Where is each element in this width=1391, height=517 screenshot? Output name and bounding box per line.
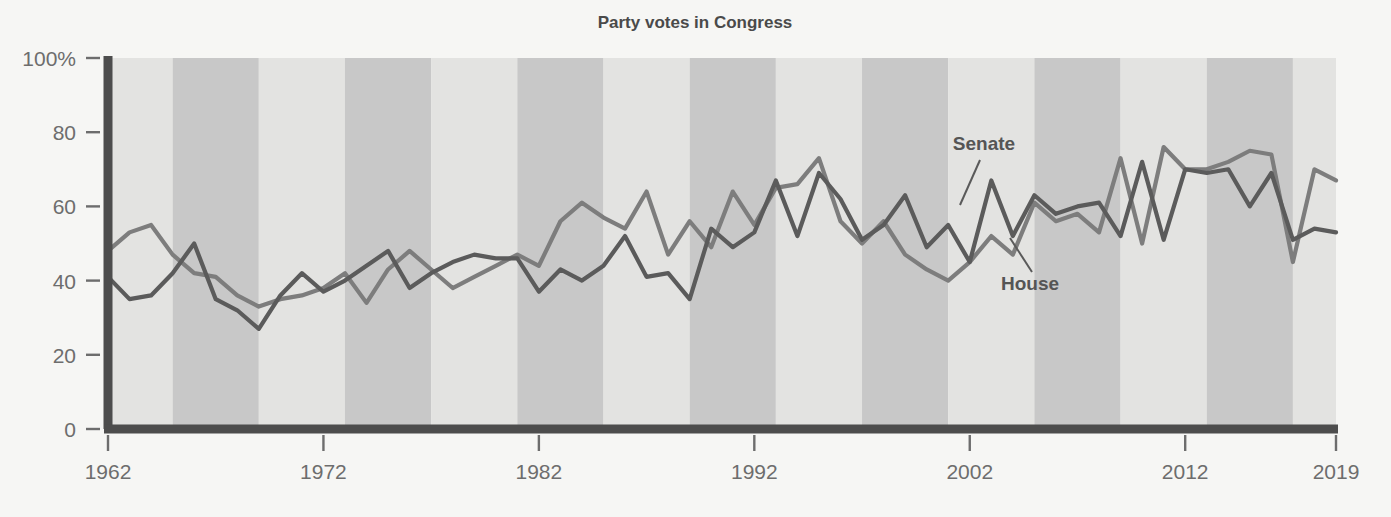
x-tick-label: 2002 (946, 460, 993, 483)
term-band (173, 58, 259, 429)
term-band (431, 58, 517, 429)
term-band (345, 58, 431, 429)
presidential-term-bands (108, 58, 1336, 429)
y-tick-label: 20 (53, 344, 76, 367)
series-label-house: House (1001, 273, 1059, 294)
x-tick-label: 2019 (1313, 460, 1360, 483)
x-tick-label: 1962 (85, 460, 132, 483)
term-band (1121, 58, 1207, 429)
x-tick-label: 2012 (1162, 460, 1209, 483)
x-tick-label: 1982 (516, 460, 563, 483)
term-band (517, 58, 603, 429)
x-tick-label: 1992 (731, 460, 778, 483)
chart-container: 020406080100% 19621972198219922002201220… (0, 0, 1391, 517)
term-band (690, 58, 776, 429)
term-band (1207, 58, 1293, 429)
term-band (1034, 58, 1120, 429)
y-tick-label: 80 (53, 121, 76, 144)
page-title: Party votes in Congress (598, 13, 793, 32)
y-tick-label: 60 (53, 195, 76, 218)
party-votes-line-chart: 020406080100% 19621972198219922002201220… (0, 0, 1391, 517)
term-band (862, 58, 948, 429)
y-tick-label: 100% (22, 47, 76, 70)
y-tick-label: 40 (53, 270, 76, 293)
x-tick-label: 1972 (300, 460, 347, 483)
y-tick-label: 0 (64, 418, 76, 441)
term-band (776, 58, 862, 429)
series-label-senate: Senate (953, 133, 1015, 154)
term-band (259, 58, 345, 429)
